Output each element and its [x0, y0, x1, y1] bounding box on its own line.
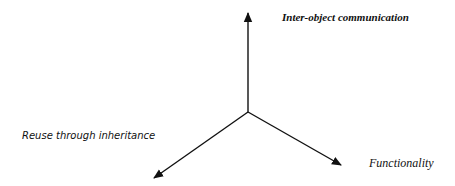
- axis-down-right-arrow: [248, 112, 341, 165]
- axis-label-inter-object-communication: Inter-object communication: [282, 12, 409, 23]
- axis-down-left-arrow: [154, 112, 248, 178]
- three-axis-diagram: Inter-object communication Reuse through…: [0, 0, 455, 186]
- axis-label-reuse-through-inheritance: Reuse through inheritance: [22, 131, 155, 141]
- axis-label-functionality: Functionality: [369, 157, 434, 169]
